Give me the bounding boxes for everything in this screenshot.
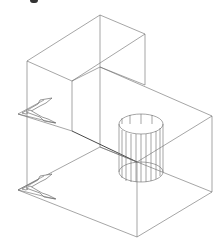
wireframe-drawing [0,0,223,249]
ucs-arrow-upper [18,98,56,123]
ucs-arrow-lower [18,174,56,199]
lower-box [18,67,212,237]
cylinder [119,114,163,182]
